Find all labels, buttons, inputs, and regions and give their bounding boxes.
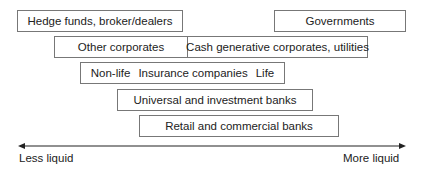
arrow-left-head-icon [18,143,25,149]
less-liquid-label: Less liquid [19,152,73,164]
arrow-right-head-icon [399,143,406,149]
liquidity-axis-arrow [0,0,424,172]
more-liquid-label: More liquid [343,152,399,164]
